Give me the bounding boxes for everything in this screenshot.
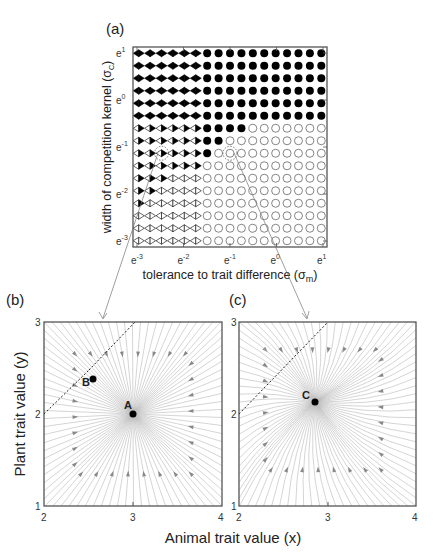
panel-c: (c) C 3 2 1 2 3 4 (229, 291, 418, 523)
equilibrium-point-c (312, 399, 319, 406)
panel-c-xtick-2: 2 (236, 512, 242, 523)
panel-c-label: (c) (229, 291, 247, 308)
panel-c-streamlines (239, 322, 416, 506)
svg-text:e-2: e-2 (178, 253, 190, 266)
svg-text:e-3: e-3 (131, 253, 143, 266)
equilibrium-point-b (90, 376, 97, 383)
shared-ylabel: Plant trait value (y) (11, 351, 28, 476)
panel-c-ytick-2: 2 (231, 409, 237, 420)
panel-a: (a) e-3e-3e-2e-2e-1e-1e0e0e1e1 width of … (100, 20, 327, 284)
svg-text:e1: e1 (317, 253, 327, 266)
svg-text:e-3: e-3 (116, 234, 128, 247)
shared-xlabel: Animal trait value (x) (165, 529, 302, 546)
equilibrium-point-a (130, 411, 137, 418)
panel-b-xtick-2: 2 (41, 512, 47, 523)
svg-text:e1: e1 (116, 46, 126, 59)
panel-c-ytick-3: 3 (231, 317, 237, 328)
panel-c-xtick-4: 4 (412, 512, 418, 523)
svg-text:e-1: e-1 (224, 253, 236, 266)
svg-text:e-2: e-2 (116, 187, 128, 200)
point-b-label: B (82, 376, 90, 388)
point-c-label: C (302, 389, 310, 401)
panel-b-label: (b) (6, 291, 24, 308)
panel-c-ytick-1: 1 (231, 501, 237, 512)
point-a-label: A (124, 399, 132, 411)
connector-lines (99, 153, 309, 319)
svg-text:e-1: e-1 (116, 140, 128, 153)
panel-b-ytick-2: 2 (35, 409, 41, 420)
figure: (a) e-3e-3e-2e-2e-1e-1e0e0e1e1 width of … (0, 0, 438, 555)
svg-text:e0: e0 (271, 253, 281, 266)
panel-b-xtick-4: 4 (218, 512, 224, 523)
panel-b: (b) A B 3 2 1 2 3 4 Plant trait value (y… (6, 291, 224, 523)
panel-b-ytick-1: 1 (35, 501, 41, 512)
marker-grid (133, 49, 325, 245)
panel-b-ytick-3: 3 (35, 317, 41, 328)
panel-b-xtick-3: 3 (130, 512, 136, 523)
svg-text:e0: e0 (116, 93, 126, 106)
panel-a-label: (a) (106, 20, 124, 37)
panel-c-xtick-3: 3 (325, 512, 331, 523)
panel-a-ylabel: width of competition kernel (σC) (100, 61, 115, 235)
